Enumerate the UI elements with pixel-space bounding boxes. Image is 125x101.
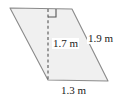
- base-label: 1.3 m: [60, 85, 87, 96]
- height-label: 1.7 m: [52, 38, 79, 49]
- geometry-figure-parallelogram: 1.7 m 1.9 m 1.3 m: [0, 0, 125, 101]
- slant-side-label: 1.9 m: [87, 33, 114, 44]
